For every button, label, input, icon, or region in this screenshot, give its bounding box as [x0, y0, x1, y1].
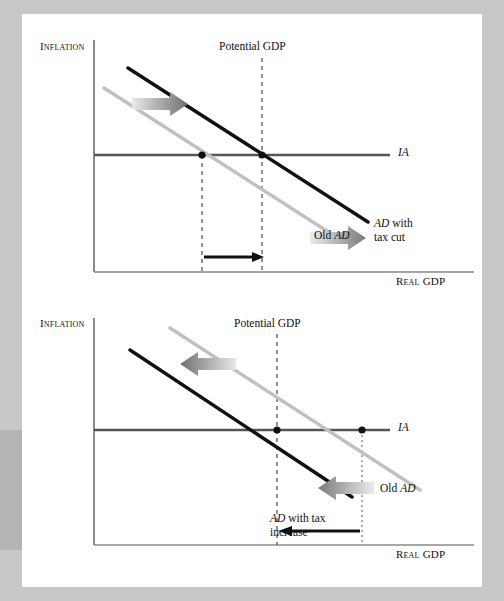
y-axis-label: Inflation	[40, 317, 85, 330]
old-ad-label: Old AD	[314, 229, 349, 243]
new-ad-curve-tax-cut	[128, 68, 368, 222]
old-ad-label-italic: AD	[334, 229, 349, 241]
frame-notch	[0, 430, 22, 550]
old-equilibrium-point	[358, 426, 365, 433]
new-ad-label-italic: AD	[374, 217, 389, 229]
potential-gdp-label: Potential GDP	[234, 317, 301, 331]
old-ad-label-italic: AD	[400, 482, 415, 494]
frame-border-right	[482, 0, 504, 601]
new-equilibrium-point	[258, 151, 265, 158]
ia-label: IA	[398, 421, 409, 435]
chart-svg-tax-cut	[22, 14, 482, 300]
chart-panel-tax-cut: Inflation Potential GDP IA Old AD AD wit…	[22, 14, 482, 300]
x-axis-label: Real GDP	[396, 548, 445, 561]
new-ad-label-italic: AD	[270, 512, 285, 524]
chart-svg-tax-increase	[22, 300, 482, 586]
shift-arrow-left-icon	[180, 352, 236, 376]
new-ad-label-tax-increase: AD with tax increase	[270, 512, 326, 539]
new-ad-label-rest: with tax	[285, 512, 325, 524]
old-ad-label: Old AD	[380, 482, 415, 496]
gdp-gap-arrow-right-icon	[204, 252, 264, 262]
new-ad-label-line2: tax cut	[374, 231, 405, 243]
new-ad-label-line2: increase	[270, 526, 308, 538]
x-axis-label: Real GDP	[396, 275, 445, 288]
old-ad-curve	[104, 88, 344, 242]
new-equilibrium-point	[273, 426, 280, 433]
ia-label: IA	[398, 146, 409, 160]
old-ad-curve	[170, 328, 420, 490]
chart-panel-tax-increase: Inflation Potential GDP IA Old AD AD wit…	[22, 300, 482, 586]
old-ad-label-prefix: Old	[314, 229, 334, 241]
new-ad-label-rest: with	[389, 217, 412, 229]
potential-gdp-label: Potential GDP	[219, 40, 286, 54]
old-ad-label-prefix: Old	[380, 482, 400, 494]
old-equilibrium-point	[198, 151, 205, 158]
y-axis-label: Inflation	[40, 40, 85, 53]
new-ad-label-tax-cut: AD with tax cut	[374, 217, 413, 244]
frame-border-bottom	[0, 587, 504, 601]
figure-container: Inflation Potential GDP IA Old AD AD wit…	[0, 0, 504, 601]
frame-border-top	[0, 0, 504, 14]
